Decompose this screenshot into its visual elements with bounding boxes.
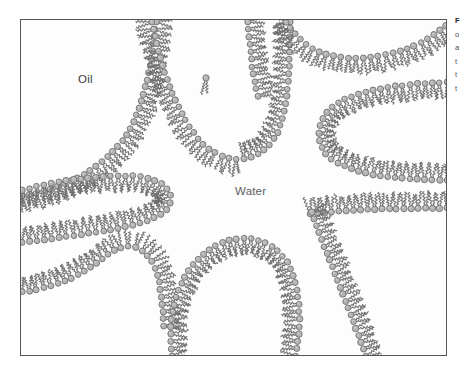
phase-label-water: Water — [235, 185, 266, 197]
caption-line: a — [455, 41, 468, 55]
caption-line: t — [455, 68, 468, 82]
caption-line: t — [455, 82, 468, 95]
lipid-layer — [0, 0, 468, 370]
diagram-stage: Oil Water F o a t t t — [0, 0, 468, 370]
caption-line: o — [455, 28, 468, 42]
phase-label-oil: Oil — [78, 73, 93, 85]
caption-line: F — [455, 14, 468, 28]
caption-strip: F o a t t t — [455, 14, 468, 94]
caption-line: t — [455, 55, 468, 69]
